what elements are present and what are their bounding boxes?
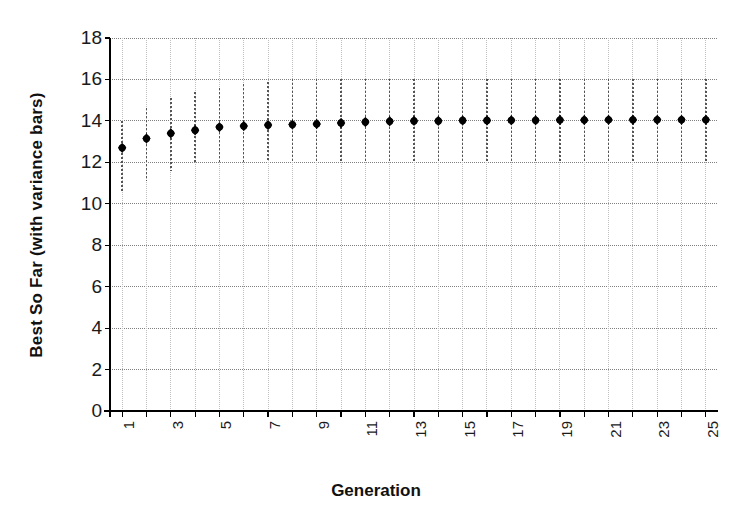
data-point-diamond (653, 115, 661, 125)
data-point-gen-20 (580, 115, 588, 125)
data-point-diamond (313, 119, 321, 129)
data-point-diamond (215, 122, 223, 132)
data-point-gen-15 (458, 115, 466, 125)
data-point-gen-25 (702, 115, 710, 125)
data-point-diamond (167, 128, 175, 138)
data-point-diamond (410, 116, 418, 126)
data-point-gen-6 (240, 121, 248, 131)
x-tick-label-7: 7 (266, 421, 283, 429)
data-point-diamond (288, 119, 296, 129)
x-tick-label-17: 17 (509, 421, 526, 438)
x-tick-label-5: 5 (217, 421, 234, 429)
x-tick-label-3: 3 (168, 421, 185, 429)
data-point-gen-8 (288, 119, 296, 129)
x-axis-title: Generation (0, 481, 752, 501)
data-point-gen-17 (507, 115, 515, 125)
x-tick-label-13: 13 (412, 421, 429, 438)
data-point-gen-14 (434, 116, 442, 126)
data-point-gen-19 (556, 115, 564, 125)
data-point-diamond (385, 116, 393, 126)
data-point-gen-1 (118, 143, 126, 153)
data-point-diamond (629, 115, 637, 125)
data-point-gen-11 (361, 117, 369, 127)
data-point-diamond (118, 143, 126, 153)
data-point-gen-3 (167, 128, 175, 138)
x-tick-label-15: 15 (460, 421, 477, 438)
data-point-gen-16 (483, 115, 491, 125)
data-point-diamond (702, 115, 710, 125)
data-point-diamond (507, 115, 515, 125)
x-tick-label-19: 19 (557, 421, 574, 438)
x-tick-label-11: 11 (363, 421, 380, 437)
x-tick-label-23: 23 (655, 421, 672, 438)
data-point-diamond (434, 116, 442, 126)
data-point-gen-21 (604, 115, 612, 125)
data-point-gen-9 (313, 119, 321, 129)
chart-container: Best So Far (with variance bars) 0246810… (0, 0, 752, 519)
data-point-gen-4 (191, 125, 199, 135)
data-point-gen-22 (629, 115, 637, 125)
data-point-diamond (604, 115, 612, 125)
data-point-gen-13 (410, 116, 418, 126)
x-tick-label-9: 9 (314, 421, 331, 429)
data-point-diamond (240, 121, 248, 131)
data-point-gen-24 (677, 115, 685, 125)
data-point-diamond (458, 115, 466, 125)
data-point-gen-23 (653, 115, 661, 125)
data-point-gen-12 (385, 116, 393, 126)
data-point-gen-7 (264, 120, 272, 130)
data-point-diamond (531, 115, 539, 125)
data-point-diamond (264, 120, 272, 130)
plot-area (0, 0, 752, 519)
data-point-gen-5 (215, 122, 223, 132)
x-tick-label-1: 1 (120, 421, 137, 429)
data-point-diamond (191, 125, 199, 135)
x-tick-label-21: 21 (606, 421, 623, 438)
x-tick-label-25: 25 (703, 421, 720, 438)
data-point-diamond (142, 133, 150, 143)
data-point-diamond (483, 115, 491, 125)
data-point-diamond (580, 115, 588, 125)
data-point-diamond (361, 117, 369, 127)
data-point-diamond (677, 115, 685, 125)
data-point-diamond (337, 118, 345, 128)
data-point-gen-18 (531, 115, 539, 125)
data-point-diamond (556, 115, 564, 125)
data-point-gen-10 (337, 118, 345, 128)
data-point-gen-2 (142, 133, 150, 143)
